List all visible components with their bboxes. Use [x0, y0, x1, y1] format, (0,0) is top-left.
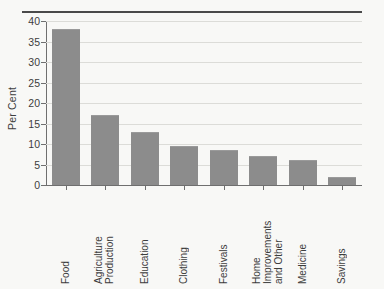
y-axis-tick-mark	[41, 83, 46, 84]
x-axis-tick-mark	[184, 186, 185, 190]
y-axis-tick-mark	[41, 42, 46, 43]
y-axis-tick-mark	[41, 185, 46, 186]
y-axis-tick-mark	[41, 21, 46, 22]
bar	[210, 150, 238, 185]
x-axis-tick-label: Home Improvements and Other	[251, 192, 275, 284]
y-axis-tick-mark	[41, 62, 46, 63]
y-axis-tick-label: 0	[34, 180, 40, 190]
x-axis-tick-mark	[263, 186, 264, 190]
gridline	[46, 21, 362, 22]
gridline	[46, 103, 362, 104]
x-axis-tick-label: Savings	[336, 192, 348, 284]
y-axis-tick-label: 15	[28, 119, 40, 129]
y-axis-tick-label: 35	[28, 37, 40, 47]
y-axis-tick-label: 10	[28, 139, 40, 149]
x-axis-tick-mark	[145, 186, 146, 190]
x-axis-tick-mark	[66, 186, 67, 190]
gridline	[46, 42, 362, 43]
y-axis-tick-label: 5	[34, 160, 40, 170]
y-axis-tick-mark	[41, 103, 46, 104]
x-axis-tick-mark	[105, 186, 106, 190]
bar	[131, 132, 159, 185]
y-axis-tick-label: 40	[28, 16, 40, 26]
bar	[170, 146, 198, 185]
plot-area	[46, 21, 362, 185]
x-axis-line	[46, 185, 362, 186]
x-axis-tick-label: Medicine	[297, 192, 309, 284]
bar	[52, 29, 80, 185]
x-axis-tick-label: Festivals	[218, 192, 230, 284]
x-axis-tick-mark	[303, 186, 304, 190]
bar	[249, 156, 277, 185]
y-axis-tick-label-group: 0510152025303540	[0, 0, 40, 289]
bar-chart-figure: Per Cent 0510152025303540 FoodAgricultur…	[0, 0, 384, 289]
x-axis-tick-mark	[224, 186, 225, 190]
header-divider-rule	[22, 11, 362, 13]
bar	[289, 160, 317, 185]
y-axis-tick-mark	[41, 144, 46, 145]
y-axis-tick-mark	[41, 124, 46, 125]
y-axis-tick-mark	[41, 165, 46, 166]
x-axis-tick-label: Education	[139, 192, 151, 284]
x-axis-tick-label: Clothing	[178, 192, 190, 284]
y-axis-tick-label: 25	[28, 78, 40, 88]
y-axis-tick-label: 20	[28, 98, 40, 108]
x-axis-tick-mark	[342, 186, 343, 190]
x-axis-tick-label: Food	[60, 192, 72, 284]
gridline	[46, 62, 362, 63]
bar	[91, 115, 119, 185]
bar	[328, 177, 356, 185]
gridline	[46, 83, 362, 84]
x-axis-tick-label: Agriculture Production	[93, 192, 117, 284]
y-axis-tick-label: 30	[28, 57, 40, 67]
